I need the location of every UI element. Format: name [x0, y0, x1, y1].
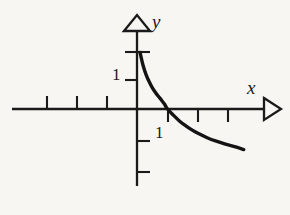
y-axis-group: [124, 15, 150, 186]
y-axis-label: y: [152, 12, 160, 31]
y-axis-ticks-negative: [137, 141, 150, 172]
y-axis-arrowhead-icon: [124, 15, 150, 31]
x-axis-group: [12, 98, 281, 120]
function-graph-figure: y x 1 1: [0, 0, 290, 215]
y-axis-tick-label-1: 1: [112, 66, 121, 83]
graph-canvas: [0, 0, 290, 215]
x-axis-arrowhead-icon: [264, 98, 281, 120]
x-axis-tick-label-1: 1: [155, 124, 164, 141]
x-axis-label: x: [247, 78, 255, 97]
x-axis-ticks-negative: [47, 96, 107, 109]
